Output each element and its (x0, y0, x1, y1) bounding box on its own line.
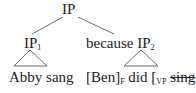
vp-subscript: VP (156, 77, 166, 86)
right-terminal: [Ben]F did [VP sing]. (86, 70, 196, 89)
because-word: because (86, 35, 133, 51)
left-node-subscript: 1 (37, 43, 41, 52)
right-node: because IP2 (86, 36, 155, 55)
elided-sing: sing (170, 69, 195, 85)
did-text: did [ (125, 69, 157, 85)
closing-bracket: ]. (195, 69, 196, 85)
ben-bracket: [Ben] (86, 69, 120, 85)
left-node-label: IP (24, 35, 37, 51)
left-terminal: Abby sang (9, 70, 74, 85)
left-node: IP1 (24, 36, 41, 55)
root-node: IP (62, 2, 75, 17)
right-node-label: IP (137, 35, 150, 51)
right-node-subscript: 2 (151, 43, 155, 52)
